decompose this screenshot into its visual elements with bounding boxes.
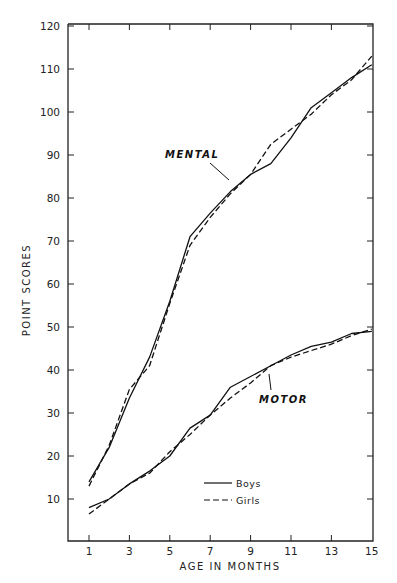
x-tick-label: 5 bbox=[166, 545, 173, 557]
y-tick-label: 60 bbox=[47, 278, 60, 290]
x-tick-label: 11 bbox=[284, 545, 297, 557]
y-tick-label: 90 bbox=[47, 149, 60, 161]
x-tick-label: 9 bbox=[247, 545, 254, 557]
mental-label: MENTAL bbox=[165, 149, 219, 160]
y-tick-label: 100 bbox=[40, 106, 60, 118]
x-axis-title: AGE IN MONTHS bbox=[180, 561, 281, 572]
y-tick-label: 70 bbox=[47, 235, 60, 247]
y-tick-label: 80 bbox=[47, 192, 60, 204]
motor-girls-line bbox=[89, 329, 372, 514]
plot-frame bbox=[68, 24, 373, 541]
x-tick-label: 3 bbox=[126, 545, 133, 557]
motor-boys-line bbox=[89, 331, 372, 507]
y-tick-label: 50 bbox=[47, 321, 60, 333]
line-chart: 102030405060708090100110120 13579111315 … bbox=[0, 0, 397, 583]
motor-leader-line bbox=[269, 374, 271, 390]
x-tick-label: 7 bbox=[207, 545, 214, 557]
mental-girls-line bbox=[89, 56, 372, 486]
x-axis-ticks: 13579111315 bbox=[86, 24, 379, 557]
legend-boys-label: Boys bbox=[236, 478, 261, 489]
y-axis-ticks: 102030405060708090100110120 bbox=[40, 20, 373, 505]
x-tick-label: 1 bbox=[86, 545, 93, 557]
legend: BoysGirls bbox=[204, 478, 261, 506]
x-tick-label: 13 bbox=[325, 545, 338, 557]
plot-border bbox=[68, 24, 373, 541]
y-tick-label: 40 bbox=[47, 364, 60, 376]
legend-girls-label: Girls bbox=[236, 495, 260, 506]
data-series bbox=[89, 56, 372, 514]
x-tick-label: 15 bbox=[365, 545, 378, 557]
y-tick-label: 110 bbox=[40, 63, 60, 75]
mental-leader-line bbox=[210, 163, 229, 180]
y-tick-label: 10 bbox=[47, 493, 60, 505]
mental-boys-line bbox=[89, 65, 372, 482]
y-tick-label: 30 bbox=[47, 407, 60, 419]
y-tick-label: 20 bbox=[47, 450, 60, 462]
y-axis-title: POINT SCORES bbox=[21, 244, 32, 336]
motor-label: MOTOR bbox=[259, 394, 308, 405]
y-tick-label: 120 bbox=[40, 20, 60, 32]
